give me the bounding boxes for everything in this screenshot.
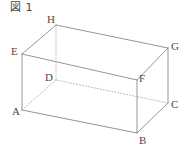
- vertex-label-g: G: [171, 41, 179, 52]
- vertex-label-b: B: [139, 135, 146, 146]
- vertex-label-c: C: [171, 99, 178, 110]
- edge-ef: [22, 54, 137, 80]
- edge-dc: [56, 80, 168, 103]
- vertex-label-f: F: [139, 73, 145, 84]
- figure-container: 図 1 ABCDEFGH: [0, 0, 185, 152]
- vertex-label-d: D: [45, 72, 53, 83]
- edge-ab: [22, 110, 137, 133]
- edge-bc: [137, 103, 168, 133]
- edge-ad: [22, 80, 56, 110]
- rectangular-prism-diagram: [0, 0, 185, 152]
- vertex-label-h: H: [47, 14, 55, 25]
- edge-layer: [22, 25, 168, 133]
- vertex-label-e: E: [11, 46, 18, 57]
- vertex-label-a: A: [12, 106, 20, 117]
- edge-eh: [22, 25, 56, 54]
- edge-hg: [56, 25, 168, 48]
